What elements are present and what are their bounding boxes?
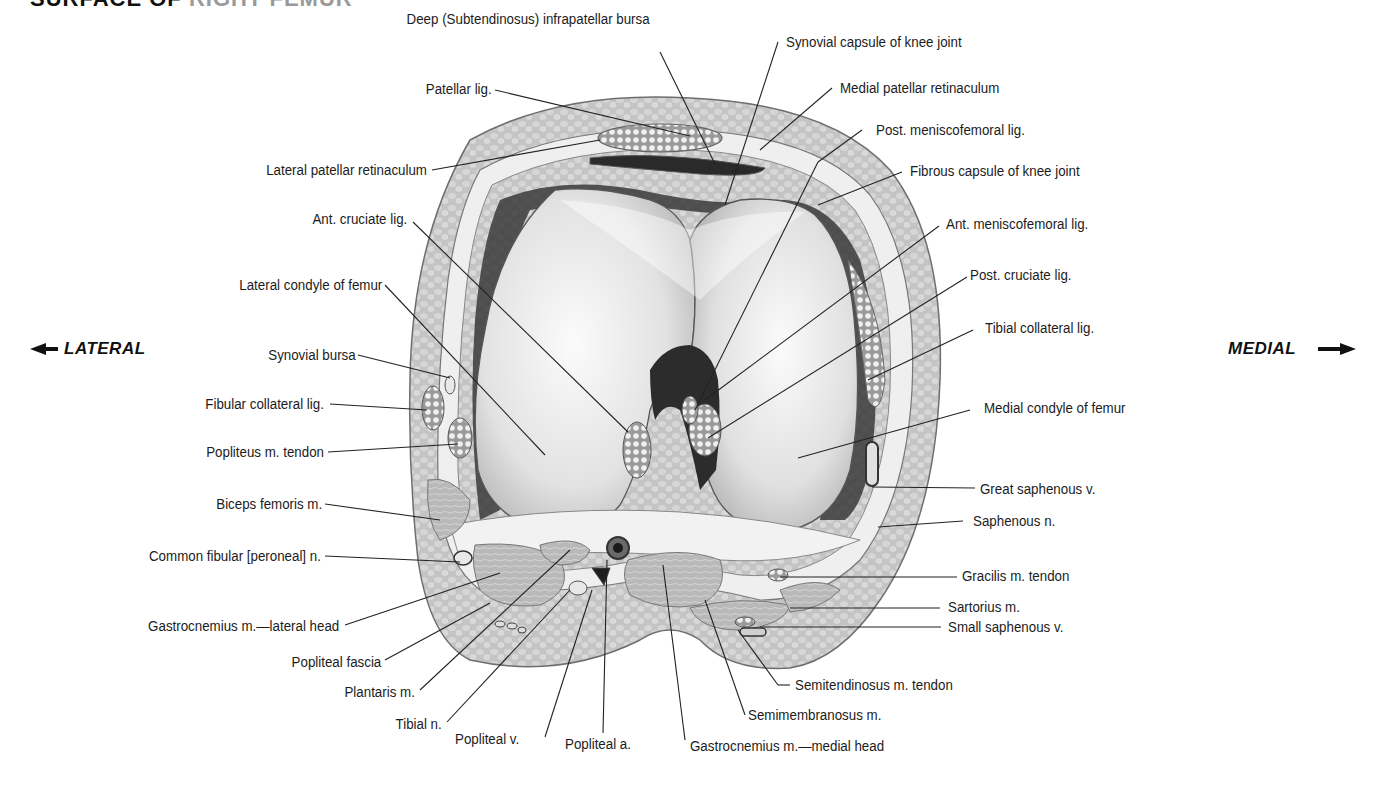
gastrocnemius-medial-shape (624, 553, 722, 608)
label-tibial-collateral-lig: Tibial collateral lig. (985, 319, 1094, 337)
common-fibular-nerve-shape (454, 551, 472, 565)
label-plantaris: Plantaris m. (345, 683, 415, 701)
label-deep-infrapatellar-bursa: Deep (Subtendinosus) infrapatellar bursa (407, 10, 650, 28)
label-popliteus-tendon: Popliteus m. tendon (206, 443, 324, 461)
label-patellar-lig: Patellar lig. (426, 80, 492, 98)
label-sartorius: Sartorius m. (948, 598, 1020, 616)
label-gastrocnemius-medial: Gastrocnemius m.—medial head (690, 737, 884, 755)
label-tibial-n: Tibial n. (396, 715, 442, 733)
label-small-saphenous-v: Small saphenous v. (948, 618, 1063, 636)
label-fibular-collateral-lig: Fibular collateral lig. (205, 395, 324, 413)
label-gastrocnemius-lateral: Gastrocnemius m.—lateral head (148, 617, 339, 635)
lateral-arrow-icon (30, 343, 58, 355)
label-fibrous-capsule: Fibrous capsule of knee joint (910, 162, 1080, 180)
gracilis-shape (768, 569, 788, 581)
great-saphenous-shape (866, 442, 878, 486)
label-synovial-bursa: Synovial bursa (269, 346, 356, 364)
label-semitendinosus-tendon: Semitendinosus m. tendon (795, 676, 953, 694)
label-lateral-condyle: Lateral condyle of femur (239, 276, 382, 294)
label-semimembranosus: Semimembranosus m. (748, 706, 881, 724)
label-post-cruciate-lig: Post. cruciate lig. (970, 266, 1072, 284)
label-great-saphenous-v: Great saphenous v. (980, 480, 1095, 498)
patellar-ligament-shape (598, 124, 722, 152)
small-saphenous-shape (740, 628, 766, 636)
semitendinosus-shape (735, 617, 755, 627)
label-saphenous-n: Saphenous n. (973, 512, 1055, 530)
label-biceps-femoris: Biceps femoris m. (216, 495, 322, 513)
label-medial-patellar-retinaculum: Medial patellar retinaculum (840, 79, 999, 97)
ant-cruciate-shape (623, 422, 651, 478)
label-ant-cruciate-lig: Ant. cruciate lig. (312, 210, 407, 228)
label-lateral-patellar-retinaculum: Lateral patellar retinaculum (266, 161, 427, 179)
fibular-collateral-shape (422, 386, 444, 430)
popliteus-tendon-shape (448, 418, 472, 458)
medial-direction-label: MEDIAL (1228, 339, 1296, 359)
lateral-text: LATERAL (64, 339, 146, 359)
medial-text: MEDIAL (1228, 339, 1296, 359)
label-synovial-capsule: Synovial capsule of knee joint (786, 33, 962, 51)
label-ant-meniscofemoral-lig: Ant. meniscofemoral lig. (946, 215, 1088, 233)
medial-arrow-icon (1318, 343, 1356, 355)
label-gracilis-tendon: Gracilis m. tendon (962, 567, 1069, 585)
label-popliteal-a: Popliteal a. (565, 735, 631, 753)
label-popliteal-v: Popliteal v. (455, 730, 519, 748)
label-popliteal-fascia: Popliteal fascia (291, 653, 381, 671)
label-post-meniscofemoral-lig: Post. meniscofemoral lig. (876, 121, 1025, 139)
lateral-direction-label: LATERAL (64, 339, 146, 359)
label-common-fibular-n: Common fibular [peroneal] n. (149, 547, 321, 565)
label-medial-condyle: Medial condyle of femur (984, 399, 1126, 417)
tibial-nerve-shape (569, 581, 587, 595)
